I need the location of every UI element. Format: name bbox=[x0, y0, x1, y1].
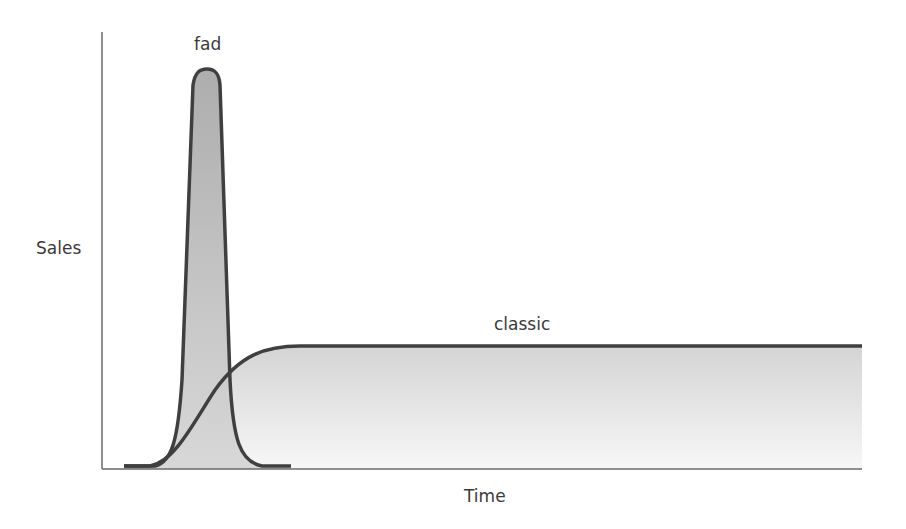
chart-canvas bbox=[0, 0, 906, 529]
classic-annotation: classic bbox=[494, 314, 550, 334]
x-axis-label: Time bbox=[464, 486, 506, 506]
fad-annotation: fad bbox=[194, 34, 221, 54]
y-axis-label: Sales bbox=[36, 238, 81, 258]
